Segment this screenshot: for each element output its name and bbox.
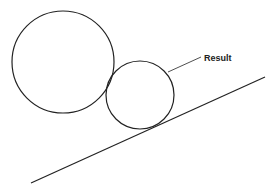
small-circle-result (106, 61, 174, 129)
large-circle (12, 11, 114, 113)
leader-line (168, 57, 201, 72)
slope-line (31, 77, 265, 183)
diagram-canvas: Result (0, 0, 272, 186)
result-label: Result (204, 53, 232, 63)
